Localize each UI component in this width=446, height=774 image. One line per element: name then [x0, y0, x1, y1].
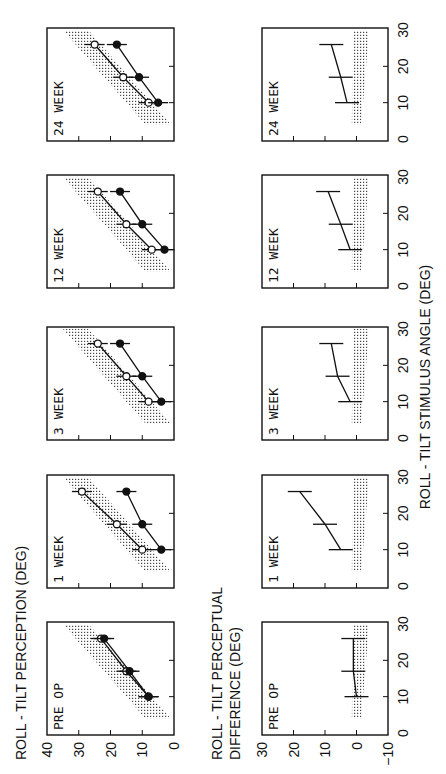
x-tick-label: 10: [395, 95, 411, 111]
perception-panel: 24 WEEK: [47, 28, 174, 141]
x-tick-label: 0: [395, 282, 411, 290]
filled-circle-marker: [161, 246, 168, 253]
panel-label: PRE OP: [266, 683, 281, 730]
filled-circle-marker: [139, 521, 146, 528]
open-circle-marker: [91, 41, 98, 48]
filled-circle-marker: [123, 488, 130, 495]
panel-label: 3 WEEK: [51, 388, 66, 435]
panel-label: 12 WEEK: [266, 228, 281, 283]
filled-circle-marker: [139, 221, 146, 228]
panel-label: 24 WEEK: [266, 81, 281, 136]
y-tick-label: 30: [71, 742, 87, 758]
difference-panel: 12 WEEK0102030: [262, 169, 411, 290]
filled-circle-marker: [155, 99, 162, 106]
y-tick-label: 40: [39, 742, 55, 758]
x-tick-label: 0: [395, 582, 411, 590]
filled-circle-marker: [139, 373, 146, 380]
x-tick-label: 20: [395, 505, 411, 521]
y-tick-label: −10: [380, 742, 396, 766]
y-tick-label: 20: [286, 742, 302, 758]
x-tick-label: 20: [395, 58, 411, 74]
x-tick-label: 10: [395, 689, 411, 705]
filled-circle-marker: [117, 188, 124, 195]
panel-label: 1 WEEK: [266, 536, 281, 583]
panel-label: 12 WEEK: [51, 228, 66, 283]
y-tick-label: 0: [166, 742, 182, 750]
filled-circle-marker: [136, 74, 143, 81]
x-tick-label: 10: [395, 542, 411, 558]
x-tick-label: 20: [395, 357, 411, 373]
panel-label: 1 WEEK: [51, 536, 66, 583]
difference-panel: 3 WEEK0102030: [262, 321, 411, 442]
x-tick-label: 0: [395, 434, 411, 442]
x-tick-label: 30: [395, 616, 411, 632]
filled-circle-marker: [113, 41, 120, 48]
x-axis-title: ROLL - TILT STIMULUS ANGLE (DEG): [417, 265, 433, 510]
open-circle-marker: [123, 373, 130, 380]
difference-panel: PRE OP0102030: [262, 616, 411, 737]
difference-panel: 1 WEEK0102030: [262, 469, 411, 590]
panel-label: PRE OP: [51, 683, 66, 730]
difference-panel: 24 WEEK0102030: [262, 22, 411, 143]
perception-panel: 12 WEEK: [47, 175, 174, 288]
open-circle-marker: [148, 246, 155, 253]
open-circle-marker: [145, 398, 152, 405]
x-tick-label: 30: [395, 321, 411, 337]
x-tick-label: 0: [395, 729, 411, 737]
x-tick-label: 30: [395, 169, 411, 185]
panel-label: 3 WEEK: [266, 388, 281, 435]
filled-circle-marker: [158, 398, 165, 405]
bottom-chart-title-line2: DIFFERENCE (DEG): [227, 627, 243, 760]
x-tick-label: 10: [395, 394, 411, 410]
filled-circle-marker: [101, 635, 108, 642]
open-circle-marker: [113, 521, 120, 528]
x-tick-label: 20: [395, 652, 411, 668]
y-tick-label: 20: [103, 742, 119, 758]
open-circle-marker: [123, 221, 130, 228]
open-circle-marker: [94, 188, 101, 195]
open-circle-marker: [120, 74, 127, 81]
filled-circle-marker: [158, 546, 165, 553]
open-circle-marker: [94, 340, 101, 347]
x-tick-label: 0: [395, 135, 411, 143]
y-tick-label: 30: [254, 742, 270, 758]
y-tick-label: 10: [134, 742, 150, 758]
top-y-axis-ticks: 403020100: [39, 742, 182, 758]
chart-figure: ROLL - TILT PERCEPTION (DEG) ROLL - TILT…: [0, 0, 446, 774]
panel-label: 24 WEEK: [51, 81, 66, 136]
bottom-chart-title-line1: ROLL - TILT PERCEPTUAL: [209, 587, 225, 760]
x-tick-label: 30: [395, 22, 411, 38]
perception-panel: 1 WEEK: [47, 475, 174, 588]
open-circle-marker: [78, 488, 85, 495]
filled-circle-marker: [126, 668, 133, 675]
y-tick-label: 10: [317, 742, 333, 758]
figure-rotated: ROLL - TILT PERCEPTION (DEG) ROLL - TILT…: [0, 0, 446, 774]
top-chart-title: ROLL - TILT PERCEPTION (DEG): [13, 546, 29, 760]
x-tick-label: 20: [395, 205, 411, 221]
y-tick-label: 0: [349, 742, 365, 750]
filled-circle-marker: [117, 340, 124, 347]
perception-panel: PRE OP: [47, 622, 174, 735]
bottom-y-axis-ticks: 3020100−10: [254, 742, 396, 766]
x-tick-label: 30: [395, 469, 411, 485]
filled-circle-marker: [145, 693, 152, 700]
open-circle-marker: [139, 546, 146, 553]
x-tick-label: 10: [395, 242, 411, 258]
perception-panel: 3 WEEK: [47, 327, 174, 440]
